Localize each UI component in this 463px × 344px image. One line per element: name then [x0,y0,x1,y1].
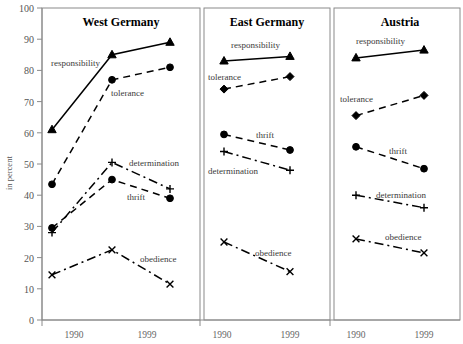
marker-circle [167,64,174,71]
x-tick-label-east-1990: 1990 [213,330,232,340]
y-tick-label-30: 30 [24,221,34,232]
marker-triangle [420,46,428,54]
marker-circle [109,76,116,83]
y-tick-label-90: 90 [24,34,34,45]
series-line-west-determination [52,162,170,232]
series-austria-obedience: obedience [353,232,428,256]
panel-austria-frame [334,8,460,320]
x-tick-label-east-1999: 1999 [281,330,300,340]
marker-circle [287,147,294,154]
series-label-austria-thrift: thrift [389,146,407,156]
marker-cross [167,281,174,288]
marker-circle [49,181,56,188]
y-axis: 100 90 80 70 60 50 40 30 20 10 0 in perc… [4,3,42,326]
series-line-austria-responsibility [356,50,424,58]
series-west-tolerance: tolerance [49,64,174,188]
series-east-determination: determination [208,148,294,177]
panel-austria: Austria responsibility tolerance thr [334,8,460,320]
series-label-west-obedience: obedience [140,254,176,264]
chart-canvas: 100 90 80 70 60 50 40 30 20 10 0 in perc… [0,0,463,344]
series-austria-tolerance: tolerance [340,91,428,119]
marker-triangle [286,52,294,60]
marker-cross [109,246,116,253]
series-austria-thrift: thrift [353,143,428,172]
marker-plus [166,185,174,193]
series-line-east-responsibility [224,56,290,61]
series-austria-responsibility: responsibility [352,36,428,61]
series-label-east-obedience: obedience [255,248,291,258]
x-tick-label-west-1990: 1990 [65,330,84,340]
marker-plus [220,148,228,156]
series-east-obedience: obedience [221,239,294,275]
panel-west-title: West Germany [83,15,160,29]
marker-triangle [166,38,174,46]
x-tick-label-austria-1999: 1999 [415,330,434,340]
panel-west-germany: West Germany responsibility tolerance [42,8,200,320]
series-west-thrift: thrift [49,176,174,231]
panel-east-title: East Germany [230,15,304,29]
marker-cross [421,250,428,257]
marker-diamond [420,91,428,99]
x-tick-label-austria-1990: 1990 [347,330,366,340]
y-tick-label-70: 70 [24,97,34,108]
series-east-tolerance: tolerance [208,72,294,93]
marker-diamond [352,112,360,120]
series-label-west-tolerance: tolerance [111,88,144,98]
panel-east-germany: East Germany responsibility tolerance [204,8,330,320]
marker-plus [352,191,360,199]
chart-figure: 100 90 80 70 60 50 40 30 20 10 0 in perc… [0,0,463,344]
marker-plus [108,158,116,166]
marker-diamond [286,73,294,81]
y-tick-label-50: 50 [24,159,34,170]
marker-circle [167,195,174,202]
series-label-west-responsibility: responsibility [51,58,100,68]
y-axis-title: in percent [4,156,14,190]
series-label-east-responsibility: responsibility [231,40,280,50]
series-label-austria-determination: determination [376,190,426,200]
y-tick-label-0: 0 [29,315,34,326]
marker-diamond [220,85,228,93]
series-line-west-thrift [52,180,170,228]
y-tick-label-60: 60 [24,128,34,139]
series-label-austria-obedience: obedience [385,232,421,242]
series-label-east-thrift: thrift [256,130,274,140]
series-label-west-determination: determination [129,158,179,168]
marker-plus [286,166,294,174]
series-label-east-determination: determination [208,166,258,176]
y-tick-label-40: 40 [24,190,34,201]
marker-plus [420,204,428,212]
x-axis: 1990 1999 1990 1999 1990 1999 [42,320,460,340]
marker-circle [49,225,56,232]
marker-cross [221,239,228,246]
series-label-austria-responsibility: responsibility [356,36,405,46]
y-tick-label-80: 80 [24,65,34,76]
y-tick-label-10: 10 [24,284,34,295]
series-west-responsibility: responsibility [48,38,174,133]
marker-circle [421,165,428,172]
series-label-austria-tolerance: tolerance [340,94,373,104]
series-east-thrift: thrift [221,130,294,153]
marker-cross [49,271,56,278]
series-label-east-tolerance: tolerance [208,72,241,82]
series-west-determination: determination [48,158,179,237]
series-east-responsibility: responsibility [220,40,294,64]
y-tick-label-20: 20 [24,253,34,264]
y-tick-label-100: 100 [19,3,34,14]
marker-circle [353,143,360,150]
series-west-obedience: obedience [49,246,177,287]
marker-circle [221,131,228,138]
series-label-west-thrift: thrift [127,192,145,202]
marker-circle [109,176,116,183]
marker-cross [287,268,294,275]
x-tick-label-west-1999: 1999 [138,330,157,340]
panel-austria-title: Austria [381,15,420,29]
series-austria-determination: determination [352,190,428,212]
